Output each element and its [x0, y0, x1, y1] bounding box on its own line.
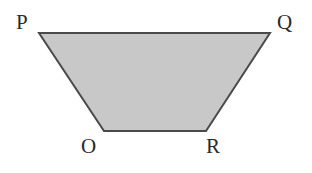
vertex-label-r: R [206, 134, 220, 158]
vertex-label-q: Q [277, 10, 292, 34]
vertex-label-p: P [16, 10, 28, 34]
vertex-label-o: O [81, 134, 96, 158]
trapezoid-diagram: P Q O R [0, 0, 312, 173]
trapezoid-shape [39, 33, 270, 131]
